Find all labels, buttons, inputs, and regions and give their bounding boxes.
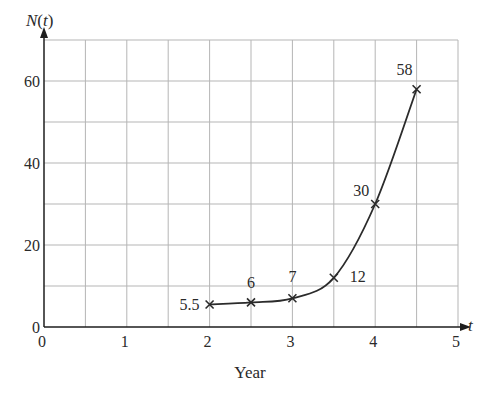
- x-tick-label: 3: [286, 333, 294, 350]
- y-axis-title: N(t): [25, 11, 53, 30]
- series-line: [210, 89, 417, 304]
- x-tick-label: 1: [121, 333, 129, 350]
- point-value-label: 12: [350, 268, 366, 285]
- tick-labels: 0123450204060: [24, 73, 460, 350]
- point-value-label: 5.5: [180, 296, 200, 313]
- y-tick-label: 40: [24, 155, 40, 172]
- x-tick-label: 2: [204, 333, 212, 350]
- point-value-label: 58: [397, 61, 413, 78]
- point-labels: 5.567123058: [180, 61, 413, 313]
- x-axis-symbol: t: [468, 316, 474, 335]
- y-tick-label: 20: [24, 237, 40, 254]
- point-value-label: 30: [353, 182, 369, 199]
- x-tick-label: 5: [452, 333, 460, 350]
- x-tick-label: 4: [369, 333, 377, 350]
- y-tick-label: 0: [32, 319, 40, 336]
- y-tick-label: 60: [24, 73, 40, 90]
- x-axis-title: Year: [234, 363, 266, 382]
- point-value-label: 6: [247, 274, 255, 291]
- point-value-label: 7: [288, 268, 296, 285]
- data-series: [206, 85, 421, 308]
- growth-chart: 0123450204060 5.567123058 N(t) t Year: [0, 0, 484, 394]
